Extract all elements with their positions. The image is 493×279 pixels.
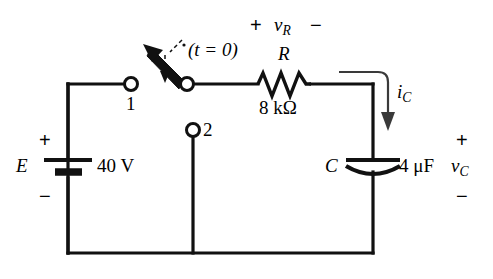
capacitor-value-label: 4 μF	[399, 156, 434, 175]
circuit-diagram: + vR − (t = 0) R 8 kΩ 1 2 iC + E 40 V − …	[0, 0, 493, 279]
source-value-label: 40 V	[97, 156, 134, 175]
source-minus-sign: −	[39, 186, 51, 206]
resistor-symbol-label: R	[278, 44, 290, 63]
capacitor-symbol	[346, 160, 400, 174]
resistor-voltage-subscript: R	[282, 23, 290, 38]
switch-blade[interactable]	[143, 44, 182, 89]
capacitor-voltage-subscript: C	[459, 164, 468, 179]
capacitor-voltage-label: vC	[451, 156, 469, 179]
current-ic-subscript: C	[402, 90, 411, 105]
resistor-symbol	[258, 73, 311, 96]
current-ic-label: iC	[397, 82, 411, 105]
switch-position-1-label: 1	[126, 94, 136, 113]
capacitor-minus-sign: −	[456, 186, 468, 206]
capacitor-plus-sign: +	[456, 130, 468, 150]
switch-pivot	[181, 78, 194, 91]
switch-terminal-2[interactable]	[187, 124, 200, 137]
switch-time-label: (t = 0)	[188, 40, 238, 59]
resistor-value-label: 8 kΩ	[259, 98, 297, 117]
switch-position-2-label: 2	[203, 120, 213, 139]
source-symbol-label: E	[16, 156, 28, 175]
source-plus-sign: +	[39, 130, 51, 150]
switch-terminal-1[interactable]	[125, 78, 138, 91]
circuit-schematic-svg	[0, 0, 493, 279]
capacitor-symbol-label: C	[325, 156, 338, 175]
resistor-minus-sign: −	[310, 15, 322, 35]
switch-label-leader	[170, 40, 186, 52]
resistor-plus-sign: +	[250, 15, 262, 35]
resistor-voltage-label: vR	[274, 15, 291, 38]
current-arrow-ic	[339, 72, 395, 131]
